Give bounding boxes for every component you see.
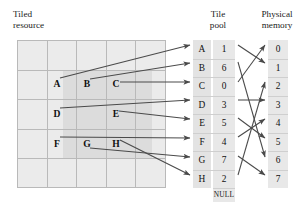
- arrow-pool-h-to-memory-2: [238, 82, 265, 175]
- arrow-pool-g-to-memory-7: [238, 156, 265, 175]
- arrow-resource-f-to-pool-f: [60, 137, 190, 138]
- arrow-resource-h-to-pool-h: [120, 140, 190, 175]
- arrow-resource-d-to-pool-d: [60, 100, 190, 108]
- diagram-canvas: Tiled resource Tile pool Physical memory…: [0, 0, 305, 216]
- arrow-resource-e-to-pool-e: [119, 111, 190, 119]
- arrow-layer: [0, 0, 305, 216]
- arrow-resource-b-to-pool-b: [90, 63, 190, 79]
- arrow-pool-a-to-memory-1: [238, 45, 265, 63]
- arrow-resource-g-to-pool-g: [90, 148, 190, 157]
- arrow-pool-c-to-memory-0: [238, 45, 265, 82]
